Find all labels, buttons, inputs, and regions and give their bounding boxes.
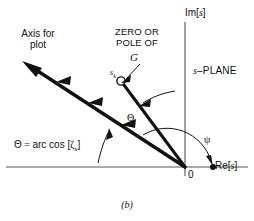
- label-g: G: [130, 51, 138, 63]
- label-sk: sk: [110, 69, 116, 79]
- plot-axis-arrowhead-end: [22, 61, 42, 77]
- label-s-plane: s–PLANE: [193, 65, 237, 76]
- label-theta-equation-function: arc cos [: [32, 139, 70, 150]
- label-re-prefix: Re[: [215, 160, 231, 171]
- label-s-plane-text: –PLANE: [197, 65, 237, 76]
- label-theta-equation-theta: Θ: [14, 139, 22, 150]
- label-im-suffix: ]: [203, 7, 206, 18]
- plot-axis-pointer-line: [98, 133, 108, 163]
- label-theta-equation-equals: =: [22, 139, 33, 150]
- label-psi-angle: ψ: [204, 134, 210, 145]
- label-im-prefix: Im[: [185, 7, 199, 18]
- label-re-suffix: ]: [234, 160, 237, 171]
- label-real-axis: Re[s]: [215, 160, 237, 171]
- label-theta-equation: Θ = arc cos [ζx]: [14, 139, 80, 154]
- label-zero-or-pole-of: ZERO OR POLE OF: [104, 27, 170, 48]
- figure-caption: (b): [0, 199, 254, 210]
- label-axis-for-plot: Axis for plot: [7, 28, 69, 50]
- label-theta-equation-bracket-close: ]: [77, 139, 80, 150]
- label-origin: 0: [188, 169, 194, 180]
- label-imaginary-axis: Im[s]: [185, 7, 206, 18]
- label-theta-angle: Θ: [127, 112, 134, 123]
- label-sk-subscript: k: [113, 73, 116, 79]
- g-leader-line: [126, 64, 140, 79]
- figure-root-locus-angle-diagram: Axis for plot ZERO OR POLE OF G sk Im[s]…: [0, 0, 254, 221]
- sk-vector-pointer-arrowhead: [139, 99, 151, 107]
